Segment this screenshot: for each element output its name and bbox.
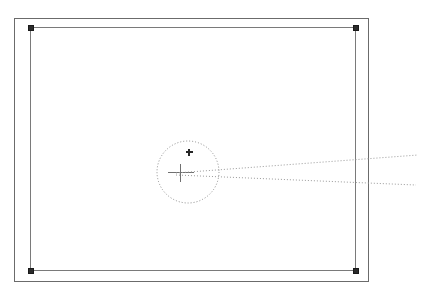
vector-drawing-surface[interactable] bbox=[0, 0, 429, 300]
canvas-background bbox=[0, 0, 429, 300]
handle-bottom-left[interactable] bbox=[28, 268, 33, 273]
drawing-canvas[interactable] bbox=[0, 0, 429, 300]
handle-top-left[interactable] bbox=[28, 25, 33, 30]
handle-bottom-right[interactable] bbox=[353, 268, 358, 273]
handle-top-right[interactable] bbox=[353, 25, 358, 30]
